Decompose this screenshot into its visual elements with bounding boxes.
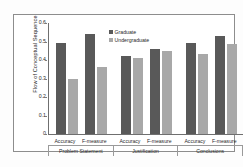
legend-swatch-icon — [109, 38, 113, 42]
y-tick-mark — [45, 97, 47, 98]
bar-graduate — [121, 56, 131, 134]
x-axis-group-label: Problem Statement — [59, 148, 103, 154]
figure: Flow of Conceptual Sequence 0.60.50.40.3… — [0, 0, 243, 167]
x-axis-group-label: Justification — [132, 148, 159, 154]
bar-undergraduate — [162, 51, 172, 134]
bar-pair — [150, 23, 172, 134]
legend-label: Undergraduate — [115, 36, 150, 44]
x-axis-group-cell: Conclusions — [177, 145, 243, 156]
y-tick-mark — [45, 60, 47, 61]
bar-pair — [215, 23, 237, 134]
y-tick-mark — [45, 23, 47, 24]
y-tick-mark — [45, 134, 47, 135]
bar-group — [179, 23, 243, 134]
x-tick-label: Accuracy — [54, 138, 75, 144]
legend-item: Graduate — [109, 28, 149, 36]
bar-undergraduate — [227, 44, 237, 134]
bar-graduate — [215, 36, 225, 134]
bar-undergraduate — [198, 54, 208, 134]
y-axis-ticks: 0.60.50.40.30.20.10 — [30, 15, 46, 153]
y-tick-label: 0 — [32, 131, 46, 136]
x-tick-label: Accuracy — [119, 138, 140, 144]
bar-graduate — [150, 49, 160, 134]
y-tick-mark — [45, 116, 47, 117]
x-tick-label: F-measure — [82, 138, 107, 144]
x-tick-label: F-measure — [212, 138, 237, 144]
x-axis-group-cell: Problem Statement — [48, 145, 113, 156]
bar-pair — [56, 23, 78, 134]
y-tick-mark — [45, 42, 47, 43]
y-tick-label: 0.6 — [32, 20, 46, 25]
y-tick-mark — [45, 79, 47, 80]
x-tick-label: Accuracy — [184, 138, 205, 144]
bar-graduate — [56, 43, 66, 134]
bar-undergraduate — [133, 58, 143, 134]
legend-item: Undergraduate — [109, 36, 149, 44]
y-tick-label: 0.3 — [32, 76, 46, 81]
y-tick-label: 0.5 — [32, 39, 46, 44]
chart-legend: GraduateUndergraduate — [109, 28, 149, 44]
y-tick-label: 0.1 — [32, 113, 46, 118]
bar-graduate — [186, 43, 196, 134]
y-tick-label: 0.4 — [32, 57, 46, 62]
x-axis-group-band: Problem StatementJustificationConclusion… — [48, 145, 243, 156]
x-axis-group-cell: Justification — [113, 145, 178, 156]
bar-pair — [186, 23, 208, 134]
bar-pair — [85, 23, 107, 134]
chart-frame: Flow of Conceptual Sequence 0.60.50.40.3… — [13, 14, 235, 152]
bar-undergraduate — [68, 79, 78, 135]
bar-group — [49, 23, 114, 134]
bar-graduate — [85, 34, 95, 134]
legend-label: Graduate — [115, 28, 137, 36]
bar-undergraduate — [97, 67, 107, 134]
x-tick-label: F-measure — [147, 138, 172, 144]
x-axis-group-label: Conclusions — [196, 148, 224, 154]
y-tick-label: 0.2 — [32, 94, 46, 99]
legend-swatch-icon — [109, 30, 113, 34]
